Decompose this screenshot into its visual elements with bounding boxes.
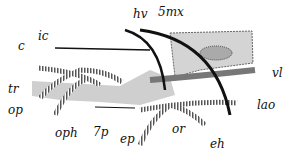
label-c: c bbox=[18, 40, 25, 52]
label-or: or bbox=[172, 123, 185, 135]
dotted-ellipse bbox=[200, 46, 232, 60]
label-eh: eh bbox=[210, 138, 225, 150]
diagram-root: hv 5mx ic c tr op oph 7p ep or eh lao vl bbox=[0, 0, 294, 164]
label-oph: oph bbox=[55, 127, 78, 139]
diagram-figure bbox=[0, 0, 294, 164]
label-ep: ep bbox=[120, 133, 135, 145]
label-tr: tr bbox=[8, 83, 19, 95]
label-ic: ic bbox=[38, 30, 49, 42]
label-lao: lao bbox=[257, 99, 275, 111]
7p-line bbox=[95, 107, 135, 108]
lao-nerve bbox=[140, 102, 237, 110]
black-line-top bbox=[55, 48, 150, 50]
label-hv: hv bbox=[133, 8, 148, 20]
label-op: op bbox=[8, 104, 23, 116]
label-vl: vl bbox=[272, 67, 283, 79]
vl-nerve bbox=[150, 70, 255, 80]
label-5mx: 5mx bbox=[158, 6, 184, 18]
label-7p: 7p bbox=[93, 126, 108, 138]
